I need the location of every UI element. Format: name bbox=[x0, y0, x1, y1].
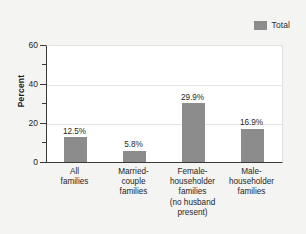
x-category-line: Male- bbox=[220, 167, 284, 177]
x-category-line: householder bbox=[161, 177, 225, 187]
x-category-line: Female- bbox=[161, 167, 225, 177]
x-category-line: householder bbox=[220, 177, 284, 187]
x-category-label-married-couple-families: Married- couple families bbox=[102, 167, 166, 198]
plot-area bbox=[46, 45, 283, 163]
y-axis-title: Percent bbox=[16, 61, 26, 121]
bar-value-label-all-families: 12.5% bbox=[48, 128, 102, 136]
x-category-line: Married- bbox=[102, 167, 166, 177]
x-category-line: present) bbox=[161, 208, 225, 218]
x-category-label-male-householder-families: Male- householder families bbox=[220, 167, 284, 198]
legend-label-total: Total bbox=[272, 21, 290, 30]
bar-all-families[interactable] bbox=[64, 137, 87, 162]
bar-female-householder-families[interactable] bbox=[182, 103, 205, 162]
y-tick-label-0: 0 bbox=[16, 158, 38, 167]
x-category-label-all-families: All families bbox=[43, 167, 107, 187]
bar-married-couple-families[interactable] bbox=[123, 151, 146, 162]
bar-male-householder-families[interactable] bbox=[241, 129, 264, 162]
x-category-line: families bbox=[102, 187, 166, 197]
gridline-40 bbox=[47, 85, 282, 86]
x-category-line: (no husband bbox=[161, 198, 225, 208]
bar-value-label-female-householder-families: 29.9% bbox=[166, 94, 220, 102]
chart-legend: Total bbox=[254, 20, 290, 31]
x-category-line: families bbox=[161, 187, 225, 197]
bar-value-label-male-householder-families: 16.9% bbox=[225, 119, 279, 127]
x-category-line: couple bbox=[102, 177, 166, 187]
y-tick-label-40: 40 bbox=[16, 80, 38, 89]
x-category-line: families bbox=[220, 187, 284, 197]
x-category-line: All bbox=[43, 167, 107, 177]
legend-swatch-icon bbox=[254, 21, 267, 30]
y-tick-label-60: 60 bbox=[16, 41, 38, 50]
bar-value-label-married-couple-families: 5.8% bbox=[107, 141, 161, 149]
x-category-label-female-householder-families: Female- householder families (no husband… bbox=[161, 167, 225, 218]
x-category-line: families bbox=[43, 177, 107, 187]
y-tick-label-20: 20 bbox=[16, 119, 38, 128]
bar-chart-figure: Total Percent 60 40 20 0 12.5% 5.8% 29.9… bbox=[0, 0, 306, 234]
